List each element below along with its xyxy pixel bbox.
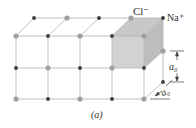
cl-ion-label: Cl⁻ <box>133 6 149 17</box>
a0-vertical-label: a₀ <box>169 62 177 72</box>
unit-cell-front-face <box>112 36 144 68</box>
na-ion-label: Na⁺ <box>167 13 184 23</box>
figure-caption: (a) <box>91 110 103 120</box>
